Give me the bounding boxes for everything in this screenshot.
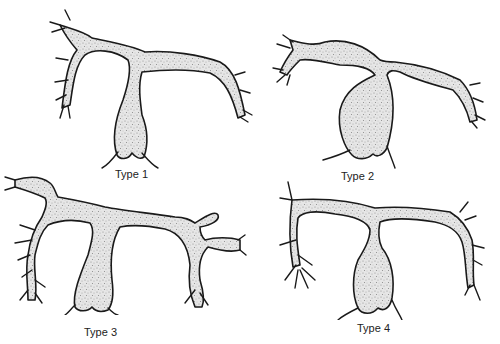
- label-type-4: Type 4: [357, 322, 390, 334]
- type-4-illustration: [260, 170, 500, 320]
- type-1-illustration: [40, 0, 260, 170]
- diagram-type-3: [0, 165, 250, 315]
- diagram-type-4: [260, 170, 500, 320]
- type-3-illustration: [0, 165, 250, 315]
- diagram-type-2: [265, 20, 500, 170]
- diagram-type-1: [40, 0, 260, 170]
- label-type-3: Type 3: [84, 326, 117, 338]
- type-2-illustration: [265, 20, 500, 170]
